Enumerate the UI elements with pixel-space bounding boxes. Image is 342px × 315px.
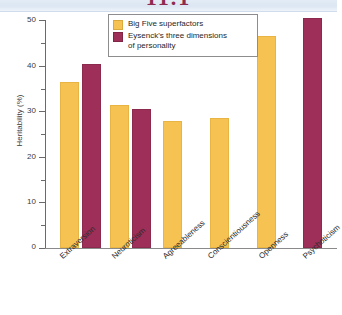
y-tick-minor-15 — [41, 180, 45, 181]
legend-swatch-big-five-icon — [113, 20, 123, 30]
y-tick-0 — [39, 248, 45, 249]
bar-extraversion-big-five[interactable] — [60, 82, 79, 248]
y-tick-label-20: 20 — [8, 153, 36, 161]
bar-neuroticism-big-five[interactable] — [110, 105, 129, 248]
y-tick-minor-45 — [41, 43, 45, 44]
y-tick-50 — [39, 20, 45, 21]
x-axis-line — [45, 248, 337, 249]
y-tick-label-40: 40 — [8, 62, 36, 70]
y-axis-title: Heritability (%) — [15, 61, 24, 181]
y-tick-minor-35 — [41, 89, 45, 90]
legend-label-eysenck: Eysenck's three dimensions of personalit… — [128, 31, 227, 51]
legend-label-big-five: Big Five superfactors — [128, 19, 203, 29]
chart-legend: Big Five superfactors Eysenck's three di… — [108, 14, 258, 57]
y-tick-40 — [39, 66, 45, 67]
legend-label-eysenck-line1: Eysenck's three dimensions — [128, 31, 227, 40]
y-tick-20 — [39, 157, 45, 158]
legend-label-eysenck-line2: of personality — [128, 41, 176, 50]
y-tick-label-30: 30 — [8, 107, 36, 115]
legend-swatch-eysenck-icon — [113, 32, 123, 42]
bar-agreeableness-big-five[interactable] — [163, 121, 182, 248]
y-tick-30 — [39, 111, 45, 112]
bar-extraversion-eysenck[interactable] — [82, 64, 101, 248]
y-tick-label-50: 50 — [8, 16, 36, 24]
bar-conscientiousness-big-five[interactable] — [210, 118, 229, 248]
bar-chart: Heritability (%) 50 40 30 20 10 0 Extrav… — [0, 11, 337, 315]
y-tick-10 — [39, 202, 45, 203]
legend-entry-eysenck: Eysenck's three dimensions of personalit… — [113, 31, 252, 51]
bar-psychoticism-eysenck[interactable] — [303, 18, 322, 248]
figure-number: 11.1 — [0, 0, 337, 11]
y-tick-label-10: 10 — [8, 198, 36, 206]
y-tick-minor-25 — [41, 134, 45, 135]
y-tick-minor-5 — [41, 225, 45, 226]
legend-entry-big-five: Big Five superfactors — [113, 19, 252, 30]
y-tick-label-0: 0 — [8, 243, 36, 251]
